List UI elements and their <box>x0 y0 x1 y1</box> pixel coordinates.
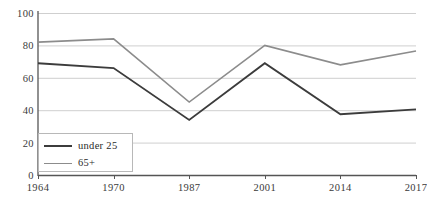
y-axis-tick-label: 60 <box>0 72 34 83</box>
legend-label-under-25: under 25 <box>78 141 117 152</box>
x-axis-tick-label: 2017 <box>405 182 427 193</box>
legend-label-65-plus: 65+ <box>78 158 95 169</box>
x-axis-tick-label: 1970 <box>102 182 125 193</box>
x-axis-tick-label: 2001 <box>253 182 276 193</box>
legend-swatch-65-plus <box>44 163 72 164</box>
legend-swatch-under-25 <box>44 145 72 147</box>
series-line-under-25 <box>38 63 416 120</box>
legend-item-65-plus: 65+ <box>44 156 95 170</box>
legend-item-under-25: under 25 <box>44 139 117 153</box>
y-axis-tick-label: 80 <box>0 40 34 51</box>
gridlines <box>38 14 416 144</box>
y-axis-tick-label: 20 <box>0 137 34 148</box>
y-axis-tick-label: 100 <box>0 8 34 19</box>
x-axis-tick-label: 1987 <box>178 182 201 193</box>
legend: under 25 65+ <box>38 133 133 172</box>
x-axis-tick-label: 2014 <box>329 182 352 193</box>
line-chart: 020406080100 196419701987200120142017 un… <box>0 0 427 211</box>
data-series <box>38 39 416 120</box>
x-axis-tick-label: 1964 <box>27 182 50 193</box>
plot-area <box>0 0 427 211</box>
y-axis-tick-label: 40 <box>0 105 34 116</box>
y-axis-tick-label: 0 <box>0 170 34 181</box>
